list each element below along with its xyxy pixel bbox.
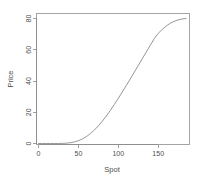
y-tick-label-1: 20 [25, 108, 32, 116]
y-axis-title: Price [6, 70, 15, 87]
x-tick-label-0: 0 [37, 150, 41, 157]
y-tick-label-2: 40 [25, 77, 32, 85]
figure-background [0, 0, 199, 181]
y-tick-label-4: 80 [25, 15, 32, 23]
y-tick-label-0: 0 [25, 141, 32, 145]
x-tick-label-3: 150 [152, 150, 164, 157]
x-tick-label-1: 50 [75, 150, 83, 157]
plot-canvas: 0 20 40 60 80 Price 0 50 100 150 Spot [0, 0, 199, 181]
x-tick-label-2: 100 [112, 150, 124, 157]
chart-figure: 0 20 40 60 80 Price 0 50 100 150 Spot [0, 0, 199, 181]
x-axis-title: Spot [104, 165, 120, 174]
y-tick-label-3: 60 [25, 46, 32, 54]
